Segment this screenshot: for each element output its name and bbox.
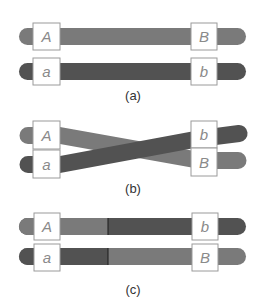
allele-label: B — [199, 28, 209, 45]
panel-c: A b a B (c) — [19, 213, 246, 297]
allele-label: a — [42, 63, 50, 80]
allele-label: b — [200, 63, 208, 80]
panel-caption: (a) — [125, 88, 141, 103]
allele-label: b — [200, 126, 208, 143]
chromosome-bottom-dark-segment — [19, 248, 108, 265]
allele-label: B — [199, 154, 209, 171]
panel-caption: (c) — [125, 282, 140, 297]
allele-label: b — [201, 218, 209, 235]
allele-label: B — [200, 249, 210, 266]
panel-b: A a b B (b) — [20, 121, 248, 196]
chromosome-top-light-segment — [19, 218, 108, 235]
allele-label: a — [42, 156, 50, 173]
allele-label: a — [43, 249, 51, 266]
allele-label: A — [40, 28, 51, 45]
allele-label: A — [41, 218, 52, 235]
crossover-diagram: A B a b (a) A a b B (b) A — [0, 0, 266, 302]
panel-caption: (b) — [125, 181, 141, 196]
panel-a: A B a b (a) — [19, 23, 246, 103]
allele-label: A — [40, 127, 51, 144]
